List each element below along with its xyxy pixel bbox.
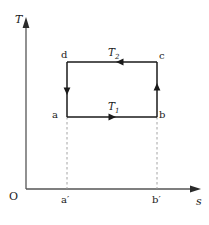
isotherm-lower-symbol: T — [108, 100, 115, 112]
horizontal-axis-arrowhead — [190, 186, 201, 193]
dashed-guides-group — [67, 117, 157, 189]
tick-label-a-prime: a′ — [61, 195, 69, 205]
isotherm-upper-subscript: 2 — [115, 53, 119, 61]
origin-label: O — [9, 191, 18, 202]
diagram-canvas — [0, 0, 209, 225]
vertex-label-b: b — [159, 110, 165, 120]
vertical-axis-label: T — [15, 14, 22, 25]
vertical-axis-arrowhead — [23, 17, 30, 28]
tick-label-b-prime: b′ — [152, 195, 161, 205]
arrowhead-b-to-c — [154, 83, 161, 91]
vertex-label-d: d — [61, 50, 67, 60]
horizontal-axis-label: s — [196, 196, 202, 207]
isotherm-lower-subscript: 1 — [115, 107, 119, 115]
arrowhead-d-to-a — [64, 88, 71, 96]
vertex-label-a: a — [52, 110, 58, 120]
isotherm-upper-symbol: T — [108, 46, 115, 58]
ts-diagram-figure: T s O d c a b T2 T1 a′ b′ — [0, 0, 209, 225]
isotherm-label-upper: T2 — [108, 47, 119, 61]
vertex-label-c: c — [159, 51, 165, 61]
isotherm-label-lower: T1 — [108, 101, 119, 115]
